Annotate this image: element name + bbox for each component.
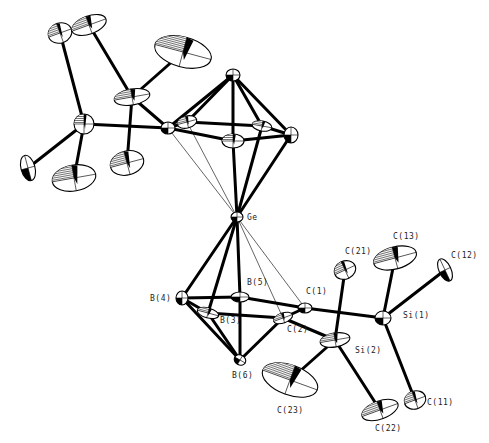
bond-T_apex-T_backleft [187,75,233,122]
atom-label-c11: C(11) [427,398,454,407]
bond-T_backleft-T_backright [187,122,262,126]
atom-si2-ellipsoid [319,331,351,350]
atom-ge-ellipsoid [231,212,243,222]
bond-Ge-B4 [182,217,237,298]
atom-c11-ellipsoid [402,388,429,412]
bond-U_Si-M2 [89,25,132,97]
bond-C1-Si1 [305,308,383,318]
atom-c2-ellipsoid [272,310,294,326]
atom-label-c21: C(21) [345,247,372,256]
bond-C2-B6 [240,318,283,360]
atom-u_si-ellipsoid [113,86,151,108]
atom-m4-ellipsoid [18,154,38,183]
atom-c21-ellipsoid [331,257,359,283]
atom-c22-ellipsoid [359,395,401,425]
atom-label-c13: C(13) [393,232,420,241]
atom-l_si-ellipsoid [74,114,94,134]
atom-label-b3: B(3) [220,316,241,325]
bond-Ge-T_front [233,141,237,217]
atom-t_backleft-ellipsoid [176,114,198,131]
atom-t_apex-ellipsoid [226,69,240,81]
bond-T_left-L_Si [84,124,168,128]
atom-label-ge: Ge [247,213,258,222]
atom-label-b5: B(5) [247,278,268,287]
atom-label-c22: C(22) [375,424,402,433]
atom-m5-ellipsoid [50,161,98,194]
bond-Ge-T_right [237,135,291,217]
atom-m1-ellipsoid [45,19,74,46]
atom-b4-ellipsoid [176,291,188,305]
bond-Si2-C21 [335,270,345,340]
atom-label-si2: Si(2) [355,346,382,355]
atoms [18,10,456,425]
atom-label-c2: C(2) [287,325,308,334]
atom-label-si1: Si(1) [403,311,430,320]
atom-t_left-ellipsoid [161,122,175,134]
bond-B5-C1 [240,297,305,308]
molecule-diagram: GeB(4)B(5)B(3)C(1)C(2)B(6)Si(1)Si(2)C(21… [0,0,489,443]
atom-t_backright-ellipsoid [251,119,272,132]
atom-label-c1: C(1) [306,287,327,296]
atom-c13-ellipsoid [371,242,419,275]
atom-c1-ellipsoid [298,303,312,313]
atom-b5-ellipsoid [231,292,249,302]
atom-labels: GeB(4)B(5)B(3)C(1)C(2)B(6)Si(1)Si(2)C(21… [150,213,478,433]
bond-Si1-C11 [383,318,415,400]
bond-L_Si-M1 [60,33,84,124]
ortep-figure: GeB(4)B(5)B(3)C(1)C(2)B(6)Si(1)Si(2)C(21… [0,0,489,443]
atom-label-b6: B(6) [232,371,253,380]
atom-t_front-ellipsoid [222,134,244,148]
bond-Ge-B5 [237,217,240,297]
atom-m2-ellipsoid [69,10,109,39]
atom-si1-ellipsoid [375,311,391,325]
atom-label-b4: B(4) [150,294,171,303]
atom-m3-ellipsoid [151,30,215,74]
atom-m6-ellipsoid [107,147,146,179]
atom-c12-ellipsoid [434,257,455,284]
atom-label-c12: C(12) [451,251,478,260]
atom-label-c23: C(23) [277,406,304,415]
atom-c23-ellipsoid [258,356,323,404]
atom-t_right-ellipsoid [284,127,298,143]
